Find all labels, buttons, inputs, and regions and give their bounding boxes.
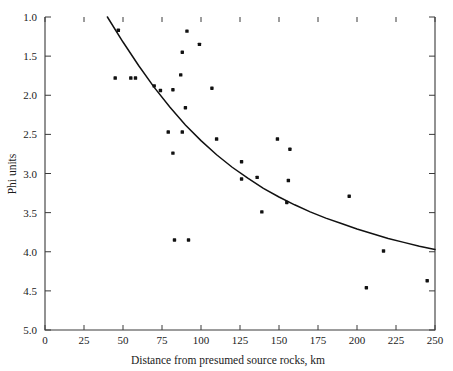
data-point: [114, 76, 117, 79]
data-point: [171, 88, 174, 91]
trend-curve-group: [107, 17, 435, 249]
data-point: [240, 160, 243, 163]
data-point: [159, 89, 162, 92]
trend-curve: [107, 17, 435, 249]
scatter-plot: 0255075100125150175200225250 1.01.52.02.…: [0, 0, 453, 371]
y-tick-label: 2.5: [23, 128, 37, 140]
data-point: [117, 29, 120, 32]
x-axis-tick-labels: 0255075100125150175200225250: [42, 334, 444, 346]
data-point: [287, 179, 290, 182]
data-point: [426, 279, 429, 282]
x-tick-label: 225: [388, 334, 405, 346]
x-tick-label: 0: [42, 334, 48, 346]
data-point: [240, 177, 243, 180]
y-tick-label: 4.0: [23, 246, 37, 258]
data-point: [184, 106, 187, 109]
data-point: [171, 151, 174, 154]
figure-container: 0255075100125150175200225250 1.01.52.02.…: [0, 0, 453, 371]
y-tick-label: 2.0: [23, 89, 37, 101]
data-point: [153, 84, 156, 87]
data-point: [173, 238, 176, 241]
x-tick-label: 50: [118, 334, 130, 346]
y-tick-label: 3.5: [23, 207, 37, 219]
x-tick-label: 100: [193, 334, 210, 346]
data-point: [187, 238, 190, 241]
data-point: [167, 130, 170, 133]
x-tick-label: 175: [310, 334, 327, 346]
data-point: [285, 201, 288, 204]
data-point: [255, 176, 258, 179]
data-point: [276, 137, 279, 140]
data-point: [134, 76, 137, 79]
data-point: [210, 87, 213, 90]
data-point: [382, 249, 385, 252]
data-point: [181, 51, 184, 54]
data-points-group: [114, 29, 429, 290]
data-point: [198, 43, 201, 46]
y-tick-label: 1.5: [23, 50, 37, 62]
y-axis-tick-labels: 1.01.52.02.53.03.54.04.55.0: [23, 11, 37, 336]
data-point: [365, 286, 368, 289]
y-tick-label: 3.0: [23, 168, 37, 180]
data-point: [260, 210, 263, 213]
y-tick-label: 5.0: [23, 324, 37, 336]
y-tick-label: 4.5: [23, 285, 37, 297]
x-axis-title: Distance from presumed source rocks, km: [131, 354, 325, 367]
data-point: [181, 130, 184, 133]
y-tick-label: 1.0: [23, 11, 37, 23]
x-tick-label: 250: [427, 334, 444, 346]
x-tick-label: 200: [349, 334, 366, 346]
data-point: [185, 29, 188, 32]
x-tick-label: 150: [271, 334, 288, 346]
data-point: [288, 148, 291, 151]
y-axis-title: Phi units: [6, 153, 18, 194]
data-point: [129, 76, 132, 79]
x-tick-label: 125: [232, 334, 249, 346]
x-tick-label: 75: [157, 334, 169, 346]
x-tick-label: 25: [79, 334, 91, 346]
data-point: [215, 137, 218, 140]
data-point: [348, 194, 351, 197]
data-point: [179, 73, 182, 76]
